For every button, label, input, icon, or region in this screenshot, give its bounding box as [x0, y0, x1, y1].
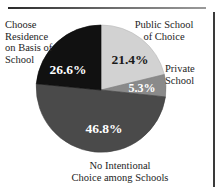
pie-value-label-public-school-of-choice: 21.4%	[111, 52, 148, 67]
category-label-no-intentional-choice: No Intentional Choice among Schools	[44, 160, 196, 183]
top-divider-rule	[8, 7, 206, 9]
pie-value-label-no-intentional-choice: 46.8%	[85, 121, 122, 136]
category-label-private-school: Private School	[165, 63, 213, 86]
pie-chart-figure: 21.4% 5.3% 46.8% 26.6% Choose Residence …	[0, 0, 218, 187]
category-label-choose-residence: Choose Residence on Basis of School	[5, 19, 67, 65]
pie-value-label-private-school: 5.3%	[129, 81, 156, 95]
right-margin-rule	[213, 12, 215, 187]
category-label-public-school-of-choice: Public School of Choice	[126, 19, 202, 42]
